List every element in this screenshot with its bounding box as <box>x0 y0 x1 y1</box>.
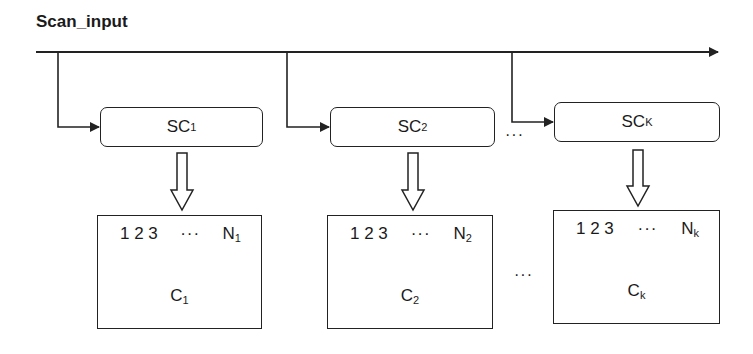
scan-chain-label: SC <box>398 117 422 137</box>
compactor-label: C2 <box>328 286 492 306</box>
scan-chain-1-box: SC1 <box>100 107 263 147</box>
scan-chain-label: SC <box>167 117 191 137</box>
compactor-label: C1 <box>98 286 261 306</box>
scan-chain-subscript: K <box>645 116 652 128</box>
sequence-dots: ··· <box>638 219 658 239</box>
scan-chain-k-box: SCK <box>554 102 720 142</box>
compactor-sequence: 1 2 3 ··· N2 <box>350 224 472 244</box>
compactor-sequence: 1 2 3 ··· Nk <box>576 219 699 239</box>
scan-chain-subscript: 2 <box>421 121 427 133</box>
scan-chain-2-box: SC2 <box>330 107 495 147</box>
ellipsis-compactors: ··· <box>514 266 533 284</box>
sequence-end: N2 <box>454 224 472 244</box>
compactor-k-box: 1 2 3 ··· Nk Ck <box>553 210 720 324</box>
compactor-sequence: 1 2 3 ··· N1 <box>120 224 241 244</box>
sequence-end: N1 <box>223 224 241 244</box>
compactor-label: Ck <box>554 281 719 301</box>
sequence-dots: ··· <box>411 224 431 244</box>
sequence-numbers: 1 2 3 <box>120 224 158 244</box>
sequence-numbers: 1 2 3 <box>350 224 388 244</box>
sequence-end: Nk <box>681 219 699 239</box>
compactor-2-box: 1 2 3 ··· N2 C2 <box>327 215 493 329</box>
compactor-1-box: 1 2 3 ··· N1 C1 <box>97 215 262 329</box>
scan-chain-subscript: 1 <box>190 121 196 133</box>
sequence-dots: ··· <box>180 224 200 244</box>
scan-chain-label: SC <box>622 112 646 132</box>
ellipsis-scan-chains: ··· <box>505 126 524 144</box>
sequence-numbers: 1 2 3 <box>576 219 614 239</box>
